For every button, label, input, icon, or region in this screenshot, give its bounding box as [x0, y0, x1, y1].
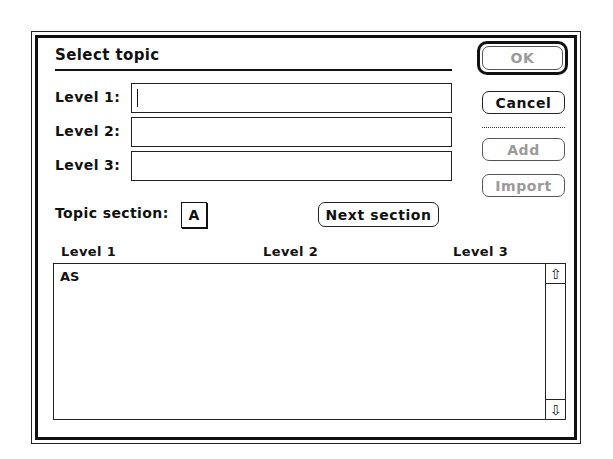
level-1-input[interactable] — [131, 83, 452, 113]
title-divider — [55, 69, 452, 71]
ok-button[interactable]: OK — [482, 46, 563, 70]
topic-section-popup[interactable]: A — [181, 202, 207, 228]
dialog-title: Select topic — [55, 46, 160, 64]
list-item[interactable]: AS — [60, 269, 79, 284]
text-caret — [137, 89, 138, 107]
level-2-input[interactable] — [131, 117, 452, 147]
cancel-button[interactable]: Cancel — [482, 91, 565, 114]
vertical-scrollbar[interactable]: ⇧ ⇩ — [545, 263, 566, 420]
column-header-level-3: Level 3 — [453, 244, 508, 259]
level-3-input[interactable] — [131, 151, 452, 181]
topic-list[interactable]: AS ⇧ ⇩ — [53, 263, 566, 420]
level-1-label: Level 1: — [55, 89, 120, 105]
next-section-button[interactable]: Next section — [318, 202, 439, 227]
add-button[interactable]: Add — [482, 138, 565, 161]
scroll-down-arrow-icon[interactable]: ⇩ — [546, 399, 565, 419]
topic-section-label: Topic section: — [55, 205, 169, 221]
import-button[interactable]: Import — [482, 174, 565, 197]
scroll-up-arrow-icon[interactable]: ⇧ — [546, 264, 565, 284]
level-3-label: Level 3: — [55, 157, 120, 173]
level-2-label: Level 2: — [55, 123, 120, 139]
column-header-level-2: Level 2 — [263, 244, 318, 259]
button-separator — [482, 127, 565, 128]
column-header-level-1: Level 1 — [61, 244, 116, 259]
